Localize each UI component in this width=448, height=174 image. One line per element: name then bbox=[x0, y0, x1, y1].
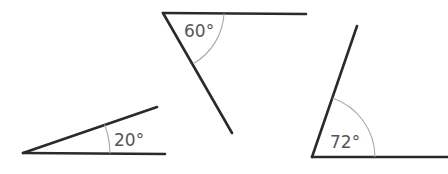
angle-20-arc bbox=[105, 125, 110, 154]
angle-60-ray-horizontal bbox=[163, 13, 306, 14]
angle-72-figure: 72° bbox=[312, 26, 448, 157]
angle-72-label: 72° bbox=[330, 132, 360, 152]
angle-60-figure: 60° bbox=[163, 13, 306, 133]
angle-20-ray-horizontal bbox=[23, 153, 165, 154]
angle-20-figure: 20° bbox=[23, 107, 165, 154]
angle-60-label: 60° bbox=[184, 21, 214, 41]
angle-20-label: 20° bbox=[114, 130, 144, 150]
angles-diagram: 20° 60° 72° bbox=[0, 0, 448, 174]
